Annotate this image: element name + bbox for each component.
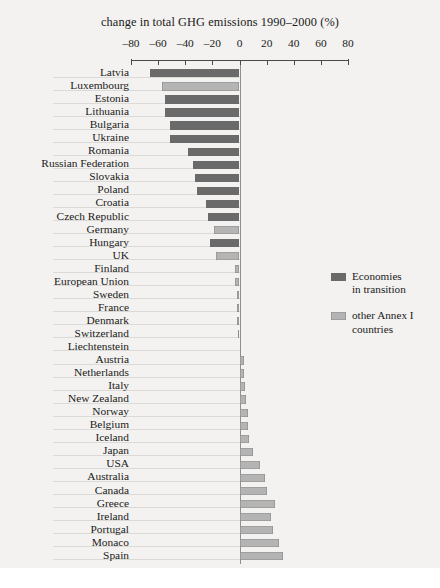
plot-area: LatviaLuxembourgEstoniaLithuaniaBulgaria… xyxy=(131,67,348,562)
chart-title: change in total GHG emissions 1990–2000 … xyxy=(0,15,440,30)
bar xyxy=(240,435,249,443)
x-axis-tick xyxy=(185,60,186,65)
x-axis-tick xyxy=(158,60,159,65)
bar xyxy=(188,148,240,156)
x-axis-tick xyxy=(294,60,295,65)
category-label: Lithuania xyxy=(0,105,129,118)
chart-row: Netherlands xyxy=(131,367,348,380)
x-axis-tick xyxy=(267,60,268,65)
bar xyxy=(165,108,240,116)
category-label: Russian Federation xyxy=(0,157,129,170)
bar xyxy=(240,487,267,495)
chart-row: New Zealand xyxy=(131,393,348,406)
bar xyxy=(240,513,271,521)
chart-row: Greece xyxy=(131,498,348,511)
chart-row: Iceland xyxy=(131,432,348,445)
chart-row: Ireland xyxy=(131,511,348,524)
chart-row: Finland xyxy=(131,263,348,276)
chart-row: Italy xyxy=(131,380,348,393)
bar xyxy=(237,317,240,325)
category-label: Belgium xyxy=(0,418,129,431)
chart-row: France xyxy=(131,302,348,315)
category-label: Spain xyxy=(0,549,129,562)
bar xyxy=(237,304,240,312)
chart-row: Czech Republic xyxy=(131,211,348,224)
category-label: Australia xyxy=(0,470,129,483)
category-label: Czech Republic xyxy=(0,210,129,223)
chart-panel: change in total GHG emissions 1990–2000 … xyxy=(0,0,440,568)
category-label: Iceland xyxy=(0,431,129,444)
x-axis-tick-label: –60 xyxy=(150,37,167,49)
category-label: Ukraine xyxy=(0,131,129,144)
category-label: Liechtenstein xyxy=(0,340,129,353)
bar xyxy=(238,330,239,338)
bar xyxy=(214,226,240,234)
category-label: Sweden xyxy=(0,288,129,301)
x-axis: –80–60–40–20020406080 xyxy=(131,55,348,65)
x-axis-tick-label: 60 xyxy=(315,37,326,49)
category-label: European Union xyxy=(0,275,129,288)
legend-label-transition-line2: in transition xyxy=(352,283,439,296)
bar xyxy=(195,174,240,182)
bar xyxy=(193,161,239,169)
bar xyxy=(240,448,254,456)
category-label: Japan xyxy=(0,444,129,457)
chart-row: Austria xyxy=(131,354,348,367)
chart-row: Poland xyxy=(131,184,348,197)
x-axis-tick-label: –80 xyxy=(122,37,139,49)
bar xyxy=(240,422,248,430)
x-axis-tick-label: 80 xyxy=(342,37,353,49)
category-label: Monaco xyxy=(0,536,129,549)
x-axis-tick xyxy=(321,60,322,65)
bar xyxy=(240,369,244,377)
legend: Economies in transition other Annex I co… xyxy=(331,270,439,349)
x-axis-tick xyxy=(131,59,132,65)
legend-label-annex1-line2: countries xyxy=(352,323,439,336)
x-axis-tick xyxy=(348,59,349,65)
category-label: France xyxy=(0,301,129,314)
chart-row: Bulgaria xyxy=(131,119,348,132)
bar xyxy=(240,461,260,469)
legend-item-transition: Economies in transition xyxy=(331,270,439,296)
chart-row: Switzerland xyxy=(131,328,348,341)
bar xyxy=(170,135,239,143)
category-label: Estonia xyxy=(0,92,129,105)
chart-row: Australia xyxy=(131,471,348,484)
figure: change in total GHG emissions 1990–2000 … xyxy=(0,0,440,588)
bar xyxy=(208,213,239,221)
bar xyxy=(197,187,239,195)
chart-row: Romania xyxy=(131,145,348,158)
category-label: UK xyxy=(0,249,129,262)
category-label: Canada xyxy=(0,484,129,497)
bar xyxy=(206,200,240,208)
category-label: Italy xyxy=(0,379,129,392)
category-label: Denmark xyxy=(0,314,129,327)
chart-row: Denmark xyxy=(131,315,348,328)
category-label: Bulgaria xyxy=(0,118,129,131)
chart-row: Hungary xyxy=(131,237,348,250)
category-label: Hungary xyxy=(0,236,129,249)
category-label: Romania xyxy=(0,144,129,157)
chart-row: Ukraine xyxy=(131,132,348,145)
legend-label-transition: Economies in transition xyxy=(352,270,439,296)
bar xyxy=(170,121,239,129)
x-axis-tick-label: 20 xyxy=(261,37,272,49)
category-label: USA xyxy=(0,457,129,470)
category-label: Netherlands xyxy=(0,366,129,379)
chart-row: Latvia xyxy=(131,67,348,80)
category-label: Finland xyxy=(0,262,129,275)
x-axis-tick-label: 0 xyxy=(237,37,243,49)
bar xyxy=(216,252,239,260)
chart-row: Luxembourg xyxy=(131,80,348,93)
category-label: Croatia xyxy=(0,196,129,209)
chart-row: Belgium xyxy=(131,419,348,432)
chart-row: Canada xyxy=(131,485,348,498)
chart-row: Monaco xyxy=(131,537,348,550)
category-label: Norway xyxy=(0,405,129,418)
chart-row: Russian Federation xyxy=(131,158,348,171)
bar xyxy=(162,82,239,90)
chart-row: Sweden xyxy=(131,289,348,302)
x-axis-tick-label: –40 xyxy=(177,37,194,49)
chart-row: Spain xyxy=(131,550,348,563)
chart-row: Liechtenstein xyxy=(131,341,348,354)
